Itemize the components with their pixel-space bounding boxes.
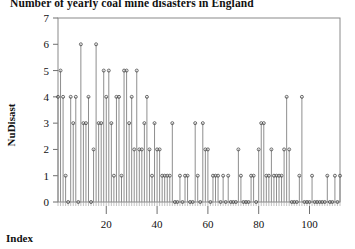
y-tick-label: 0 xyxy=(44,196,50,208)
y-tick-label: 3 xyxy=(44,117,50,129)
y-tick-label: 2 xyxy=(44,143,50,155)
y-tick-label: 5 xyxy=(44,65,50,77)
x-tick-label: 60 xyxy=(202,218,214,230)
stem-plot-svg: 0123456720406080100 xyxy=(0,0,355,249)
y-tick-label: 4 xyxy=(44,91,50,103)
data-series-nudisast xyxy=(57,43,342,204)
x-tick-label: 80 xyxy=(253,218,265,230)
y-tick-label: 1 xyxy=(44,170,50,182)
x-tick-label: 20 xyxy=(101,218,113,230)
x-tick-label: 100 xyxy=(301,218,318,230)
y-tick-label: 7 xyxy=(44,12,50,24)
y-tick-label: 6 xyxy=(44,38,50,50)
chart-container: Number of yearly coal mine disasters in … xyxy=(0,0,355,249)
x-tick-label: 40 xyxy=(152,218,164,230)
